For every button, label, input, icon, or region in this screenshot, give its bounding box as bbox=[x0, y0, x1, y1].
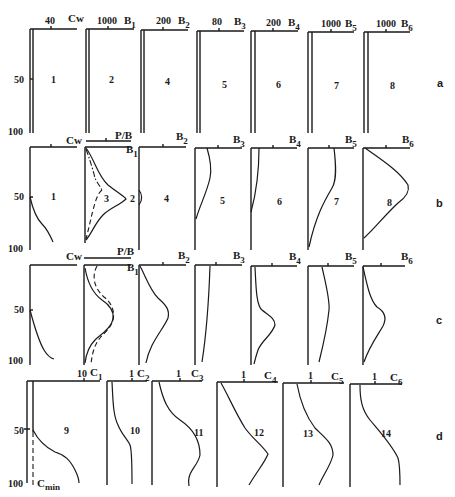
tick-label: 40 bbox=[45, 15, 55, 26]
axis-label-c1: C1 bbox=[90, 366, 103, 382]
axis-label-b1: B1 bbox=[126, 143, 138, 159]
panel-number: 7 bbox=[334, 80, 339, 91]
row-c: Cw 50 100 P/B B1 B2 B3 B4 bbox=[8, 245, 442, 366]
depth-tick-50: 50 bbox=[14, 74, 24, 85]
row-d: 10 C1 9 Cmin 50 100 1 C2 10 1 C3 11 bbox=[8, 366, 443, 492]
panel-b5: B4 6 bbox=[251, 133, 301, 250]
axis-label-b4: B4 bbox=[288, 16, 300, 32]
panel-d9: 10 C1 9 Cmin 50 100 bbox=[8, 366, 103, 492]
panel-d11: 1 C3 11 bbox=[152, 367, 204, 486]
tick-label: 1 bbox=[129, 368, 134, 379]
profile-diagram: 40 Cw 1 50 100 1000 B1 2 200 B2 4 80 B3 bbox=[0, 0, 455, 497]
annotation-cmin: Cmin bbox=[37, 477, 60, 492]
panel-b4: B3 5 bbox=[195, 133, 245, 250]
axis-label-b6: B6 bbox=[401, 250, 413, 266]
row-label-b: b bbox=[436, 197, 443, 209]
panel-d14: 1 C6 14 bbox=[350, 371, 403, 487]
axis-label-pb: P/B bbox=[115, 129, 133, 141]
row-label-c: c bbox=[436, 314, 442, 326]
axis-label-b4: B4 bbox=[289, 133, 301, 149]
panel-number: 1 bbox=[51, 74, 56, 85]
tick-label: 1 bbox=[372, 371, 377, 382]
tick-label: 1 bbox=[176, 368, 181, 379]
axis-label-b3: B3 bbox=[233, 249, 245, 265]
panel-b7: B6 8 bbox=[363, 133, 414, 250]
panel-a6: 1000 B5 7 bbox=[308, 17, 357, 133]
axis-label-pb: P/B bbox=[117, 245, 135, 257]
depth-tick-100: 100 bbox=[8, 478, 23, 489]
axis-label-b6: B6 bbox=[402, 133, 414, 149]
panel-number: 6 bbox=[276, 79, 281, 90]
panel-c6: B5 bbox=[308, 250, 357, 365]
tick-label: 80 bbox=[212, 16, 222, 27]
axis-label-b5: B5 bbox=[345, 250, 357, 266]
tick-label: 1000 bbox=[376, 18, 396, 29]
panel-a7: 1000 B6 8 bbox=[364, 17, 413, 133]
panel-number-3: 3 bbox=[104, 193, 109, 204]
panel-number: 4 bbox=[164, 193, 169, 204]
axis-label-b5: B5 bbox=[345, 133, 357, 149]
panel-b2: P/B B1 3 2 bbox=[85, 129, 138, 243]
panel-c4: B3 bbox=[195, 249, 245, 365]
panel-c2: P/B B1 bbox=[84, 245, 139, 365]
panel-c3: B2 bbox=[139, 249, 190, 365]
tick-label: 1000 bbox=[97, 15, 117, 26]
row-b: Cw 1 50 100 P/B B1 3 2 B2 4 B3 bbox=[8, 129, 443, 254]
tick-label: 200 bbox=[266, 17, 281, 28]
panel-b1: Cw 1 50 100 bbox=[8, 134, 82, 254]
axis-label-b2: B2 bbox=[178, 249, 190, 265]
depth-tick-50: 50 bbox=[14, 191, 24, 202]
row-label-a: a bbox=[437, 77, 444, 89]
panel-number: 1 bbox=[51, 191, 56, 202]
panel-number: 13 bbox=[303, 428, 313, 439]
axis-label-b1: B1 bbox=[124, 14, 136, 30]
axis-label-b6: B6 bbox=[401, 17, 413, 33]
tick-label: 1 bbox=[308, 370, 313, 381]
panel-number: 6 bbox=[277, 196, 282, 207]
panel-b6: B5 7 bbox=[308, 133, 357, 250]
panel-c1: Cw 50 100 bbox=[8, 250, 82, 366]
panel-number: 5 bbox=[220, 195, 225, 206]
panel-number: 10 bbox=[130, 425, 140, 436]
tick-label: 1 bbox=[241, 369, 246, 380]
panel-number: 5 bbox=[222, 79, 227, 90]
panel-c5: B4 bbox=[251, 250, 301, 365]
panel-number: 8 bbox=[387, 197, 392, 208]
depth-tick-100: 100 bbox=[8, 243, 23, 254]
panel-number: 4 bbox=[165, 76, 170, 87]
panel-a1: 40 Cw 1 50 100 bbox=[8, 12, 84, 137]
panel-a2: 1000 B1 2 bbox=[86, 14, 136, 133]
depth-tick-100: 100 bbox=[8, 126, 23, 137]
panel-a5: 200 B4 6 bbox=[251, 16, 300, 133]
panel-number: 14 bbox=[381, 428, 391, 439]
panel-d12: 1 C4 12 bbox=[217, 369, 278, 487]
row-label-d: d bbox=[436, 430, 443, 442]
axis-label-b2: B2 bbox=[178, 14, 190, 30]
panel-number: 9 bbox=[64, 425, 69, 436]
row-a: 40 Cw 1 50 100 1000 B1 2 200 B2 4 80 B3 bbox=[8, 12, 444, 137]
tick-label: 10 bbox=[77, 368, 87, 379]
panel-number: 12 bbox=[254, 427, 264, 438]
panel-b3: B2 4 bbox=[139, 130, 188, 250]
panel-a3: 200 B2 4 bbox=[141, 14, 190, 133]
axis-label-cw: Cw bbox=[66, 134, 82, 146]
panel-number: 8 bbox=[390, 80, 395, 91]
panel-number: 2 bbox=[109, 74, 114, 85]
depth-tick-50: 50 bbox=[14, 425, 24, 436]
panel-number: 7 bbox=[334, 196, 339, 207]
axis-label-b2: B2 bbox=[176, 130, 188, 146]
panel-number: 11 bbox=[194, 427, 203, 438]
tick-label: 1000 bbox=[321, 18, 341, 29]
panel-number-2: 2 bbox=[130, 193, 135, 204]
depth-tick-100: 100 bbox=[8, 355, 23, 366]
panel-c7: B6 bbox=[363, 250, 413, 365]
depth-tick-50: 50 bbox=[14, 304, 24, 315]
axis-label-b3: B3 bbox=[233, 133, 245, 149]
panel-d10: 1 C2 10 bbox=[107, 367, 150, 485]
axis-label-cw: Cw bbox=[68, 12, 84, 24]
panel-d13: 1 C5 13 bbox=[283, 370, 344, 487]
axis-label-b1: B1 bbox=[127, 261, 139, 277]
tick-label: 200 bbox=[156, 15, 171, 26]
panel-a4: 80 B3 5 bbox=[197, 15, 246, 133]
axis-label-b3: B3 bbox=[234, 15, 246, 31]
